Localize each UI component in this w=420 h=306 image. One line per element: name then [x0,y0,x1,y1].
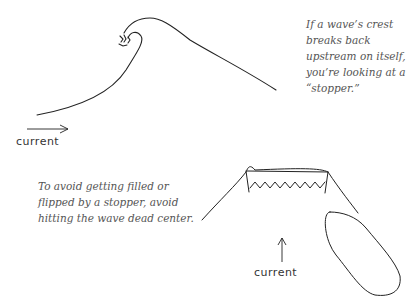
avoid-center-caption: To avoid getting filled or flipped by a … [38,178,208,226]
arrow-up-icon [278,238,286,262]
current-arrow-right [27,125,68,133]
current-label-bottom: current [254,266,297,279]
breaking-wave-figure [37,18,276,115]
current-label-top: current [16,135,59,148]
wave-foam-scribble [119,35,130,46]
boat-outline [325,212,400,295]
wave-crest-line [124,18,276,90]
stopper-definition-caption: If a wave’s crest breaks back upstream o… [306,16,418,96]
current-arrow-up [278,238,286,262]
arrow-right-icon [27,125,68,133]
stopper-box-right [325,172,328,193]
stopper-zigzag-foam [250,182,325,188]
stopper-box-left [246,171,249,192]
stopper-box-top [247,171,328,172]
stopper-front-figure [202,167,400,296]
